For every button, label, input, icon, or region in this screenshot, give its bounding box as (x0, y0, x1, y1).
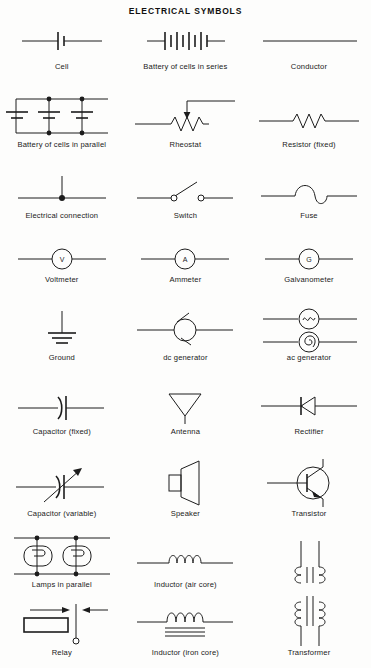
symbol-label: Antenna (171, 428, 200, 436)
symbol-row: Relay Inductor (iron core) (0, 601, 371, 657)
voltmeter-symbol: V (0, 242, 124, 276)
battery-series-symbol (124, 19, 248, 63)
transformer-symbol (247, 601, 371, 649)
page-title: ELECTRICAL SYMBOLS (0, 0, 371, 16)
symbol-cell-voltmeter: V Voltmeter (0, 242, 124, 284)
symbol-cell-switch: Switch (124, 170, 248, 220)
symbol-cell-cell: Cell (0, 19, 124, 71)
symbol-label: Resistor (fixed) (282, 141, 335, 149)
symbol-cell-lamps-parallel: Lamps in parallel (0, 531, 124, 589)
symbol-label: Inductor (iron core) (152, 649, 219, 657)
voltmeter-glyph: V (59, 256, 64, 263)
symbol-cell-capacitor-fixed: Capacitor (fixed) (0, 382, 124, 436)
symbol-cell-resistor-fixed: Resistor (fixed) (247, 91, 371, 149)
symbol-label: Ground (49, 354, 75, 362)
symbol-label: Rheostat (170, 141, 202, 149)
galvanometer-symbol: G (247, 242, 371, 276)
electrical-symbols-sheet: ELECTRICAL SYMBOLS Cell (0, 0, 371, 668)
capacitor-variable-symbol (0, 456, 124, 510)
symbol-label: dc generator (163, 354, 207, 362)
symbol-label: Switch (174, 212, 197, 220)
inductor-air-core-symbol (124, 531, 248, 581)
dc-generator-symbol (124, 306, 248, 354)
galvanometer-glyph: G (306, 256, 311, 263)
relay-symbol (0, 601, 124, 649)
symbol-row: Capacitor (fixed) Antenna (0, 382, 371, 436)
conductor-symbol (247, 19, 371, 63)
symbol-cell-dc-generator: dc generator (124, 306, 248, 362)
electrical-connection-symbol (0, 170, 124, 212)
symbol-label: Capacitor (variable) (27, 510, 96, 518)
symbol-cell-galvanometer: G Galvanometer (247, 242, 371, 284)
symbol-label: Cell (55, 63, 69, 71)
symbol-cell-speaker: Speaker (124, 456, 248, 518)
symbol-row: Lamps in parallel Inductor (air core) (0, 531, 371, 589)
cell-symbol (0, 19, 124, 63)
symbol-cell-rheostat: Rheostat (124, 91, 248, 149)
symbol-label: Fuse (300, 212, 317, 220)
symbol-row: Ground dc generator (0, 306, 371, 362)
symbol-label: ac generator (287, 354, 331, 362)
transistor-symbol (247, 456, 371, 510)
symbol-cell-ammeter: A Ammeter (124, 242, 248, 284)
symbol-label: Battery of cells in parallel (17, 141, 106, 149)
ac-generator-symbol (247, 306, 371, 354)
symbol-label: Capacitor (fixed) (33, 428, 91, 436)
capacitor-fixed-symbol (0, 382, 124, 428)
symbol-cell-transistor: Transistor (247, 456, 371, 518)
symbol-row: Battery of cells in parallel Rheostat (0, 91, 371, 149)
symbols-grid: Cell Bat (0, 16, 371, 656)
symbol-cell-relay: Relay (0, 601, 124, 657)
symbol-cell-fuse: Fuse (247, 170, 371, 220)
rheostat-symbol (124, 91, 248, 141)
ammeter-glyph: A (183, 256, 188, 263)
symbol-label: Galvanometer (284, 276, 334, 284)
battery-parallel-symbol (0, 91, 124, 141)
symbol-cell-battery-series: Battery of cells in series (124, 19, 248, 71)
symbol-cell-transformer: Transformer (247, 601, 371, 657)
symbol-row: Cell Bat (0, 19, 371, 71)
symbol-label: Lamps in parallel (32, 581, 92, 589)
symbol-label: Electrical connection (25, 212, 98, 220)
speaker-symbol (124, 456, 248, 510)
symbol-label: Battery of cells in series (143, 63, 227, 71)
symbol-cell-rectifier: Rectifier (247, 382, 371, 436)
symbol-cell-inductor-air-core: Inductor (air core) (124, 531, 248, 589)
symbol-cell-ac-generator: ac generator (247, 306, 371, 362)
symbol-label: Relay (52, 649, 72, 657)
switch-symbol (124, 170, 248, 212)
symbol-label: Speaker (171, 510, 200, 518)
symbol-label: Ammeter (169, 276, 201, 284)
symbol-label: Inductor (air core) (154, 581, 217, 589)
symbol-label: Voltmeter (45, 276, 78, 284)
symbol-label: Transistor (291, 510, 326, 518)
antenna-symbol (124, 382, 248, 428)
ground-symbol (0, 306, 124, 354)
symbol-row: Electrical connection Switch (0, 170, 371, 220)
resistor-fixed-symbol (247, 91, 371, 141)
lamps-parallel-symbol (0, 531, 124, 581)
symbol-row: Capacitor (variable) Speaker (0, 456, 371, 518)
symbol-label: Rectifier (294, 428, 323, 436)
symbol-cell-electrical-connection: Electrical connection (0, 170, 124, 220)
transformer-upper-symbol (247, 531, 371, 581)
symbol-row: V Voltmeter A Ammeter (0, 242, 371, 284)
symbol-cell-inductor-iron-core: Inductor (iron core) (124, 601, 248, 657)
symbol-cell-ground: Ground (0, 306, 124, 362)
symbol-label: Conductor (291, 63, 327, 71)
ammeter-symbol: A (124, 242, 248, 276)
rectifier-symbol (247, 382, 371, 428)
symbol-cell-battery-parallel: Battery of cells in parallel (0, 91, 124, 149)
symbol-cell-antenna: Antenna (124, 382, 248, 436)
symbol-cell-capacitor-variable: Capacitor (variable) (0, 456, 124, 518)
fuse-symbol (247, 170, 371, 212)
symbol-cell-conductor: Conductor (247, 19, 371, 71)
inductor-iron-core-symbol (124, 601, 248, 649)
symbol-cell-transformer-upper (247, 531, 371, 589)
symbol-label: Transformer (288, 649, 331, 657)
